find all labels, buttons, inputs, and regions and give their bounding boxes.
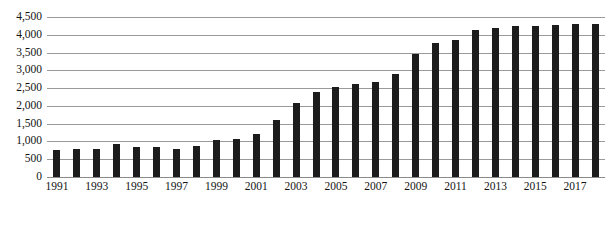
x-tick-label: 2007 [364,181,387,193]
bar [592,24,599,177]
bar [572,24,579,177]
bar [113,144,120,177]
bar [332,87,339,177]
y-tick-label: 3,500 [16,47,42,59]
bar [492,28,499,177]
axis-baseline [47,177,605,178]
bar [372,82,379,177]
x-tick-label: 2009 [404,181,427,193]
x-tick-label: 2017 [564,181,587,193]
bar [253,134,260,177]
x-tick-label: 1997 [165,181,188,193]
bar [512,26,519,177]
y-tick-label: 4,500 [16,11,42,23]
y-tick-label: 2,000 [16,100,42,112]
x-tick-label: 2005 [324,181,347,193]
bar [313,92,320,177]
bar [173,149,180,177]
bar [233,139,240,177]
y-axis-tick-labels: 4,5004,0003,5003,0002,5002,0001,5001,000… [0,0,47,228]
bar [53,150,60,177]
bar [153,147,160,177]
x-tick-label: 2003 [285,181,308,193]
x-tick-label: 2001 [245,181,268,193]
bar [73,149,80,177]
bar [552,25,559,177]
x-tick-label: 2011 [444,181,467,193]
bar [472,30,479,177]
bar-chart: 4,5004,0003,5003,0002,5002,0001,5001,000… [0,0,612,228]
bar [532,26,539,177]
y-tick-label: 500 [25,153,42,165]
bar [273,120,280,177]
y-tick-label: 1,500 [16,118,42,130]
y-tick-label: 2,500 [16,82,42,94]
x-tick-label: 1999 [205,181,228,193]
bar [412,54,419,177]
bar [352,84,359,177]
y-tick-label: 0 [36,171,42,183]
y-tick-label: 1,000 [16,136,42,148]
bar [213,140,220,177]
bar [93,149,100,177]
y-tick-label: 3,000 [16,65,42,77]
y-tick-label: 4,000 [16,29,42,41]
plot-area [47,17,605,177]
x-tick-label: 1995 [125,181,148,193]
bar [392,74,399,177]
bar [293,103,300,177]
x-tick-label: 1993 [85,181,108,193]
x-axis-tick-labels: 1991199319951997199920012003200520072009… [47,179,605,199]
bar [193,146,200,177]
bar [432,43,439,177]
bar [452,40,459,177]
x-tick-label: 2013 [484,181,507,193]
bar [133,147,140,177]
x-tick-label: 1991 [45,181,68,193]
bar-series [47,17,605,177]
x-tick-label: 2015 [524,181,547,193]
